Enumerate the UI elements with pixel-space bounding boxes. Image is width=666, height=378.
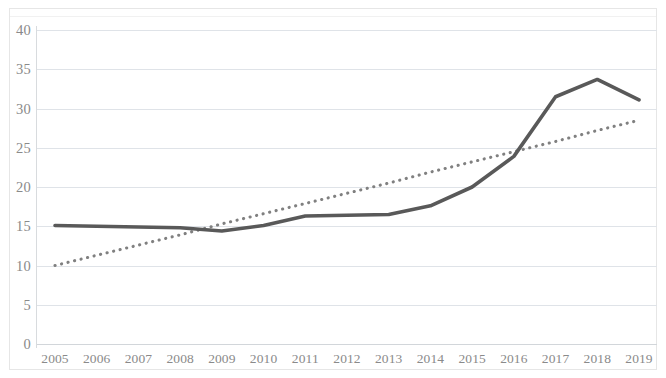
x-tick-label-2017: 2017 <box>534 352 578 366</box>
x-tick-label-2005: 2005 <box>33 352 77 366</box>
x-tick-label-2018: 2018 <box>575 352 619 366</box>
x-tick-label-2006: 2006 <box>75 352 119 366</box>
line-chart: 0510152025303540 20052006200720082009201… <box>0 0 666 378</box>
x-tick-label-2015: 2015 <box>450 352 494 366</box>
x-tick-label-2008: 2008 <box>158 352 202 366</box>
x-axis-tick-labels: 2005200620072008200920102011201220132014… <box>0 0 666 378</box>
x-tick-label-2009: 2009 <box>200 352 244 366</box>
x-tick-label-2011: 2011 <box>283 352 327 366</box>
x-tick-label-2014: 2014 <box>408 352 452 366</box>
x-tick-label-2010: 2010 <box>242 352 286 366</box>
x-tick-label-2012: 2012 <box>325 352 369 366</box>
x-tick-label-2007: 2007 <box>116 352 160 366</box>
x-tick-label-2013: 2013 <box>367 352 411 366</box>
x-tick-label-2016: 2016 <box>492 352 536 366</box>
x-tick-label-2019: 2019 <box>617 352 661 366</box>
